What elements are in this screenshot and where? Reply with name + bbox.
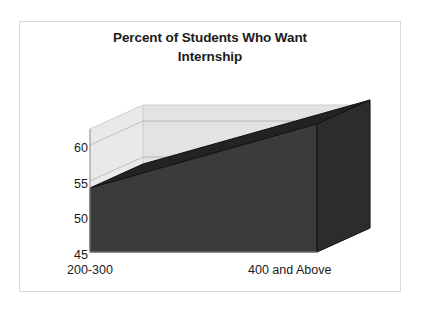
plot-svg bbox=[0, 0, 423, 310]
y-axis-tick-label: 60 bbox=[54, 142, 88, 155]
y-axis-tick-label: 55 bbox=[54, 178, 88, 191]
x-axis-tick-label: 400 and Above bbox=[248, 263, 331, 277]
plot-area bbox=[0, 0, 423, 310]
x-axis-tick-label: 200-300 bbox=[67, 263, 113, 277]
y-axis-tick-label: 50 bbox=[54, 213, 88, 226]
series-right-face bbox=[317, 100, 370, 252]
chart-figure: Percent of Students Who Want Internship bbox=[0, 0, 423, 310]
y-axis-tick-label: 45 bbox=[54, 249, 88, 262]
